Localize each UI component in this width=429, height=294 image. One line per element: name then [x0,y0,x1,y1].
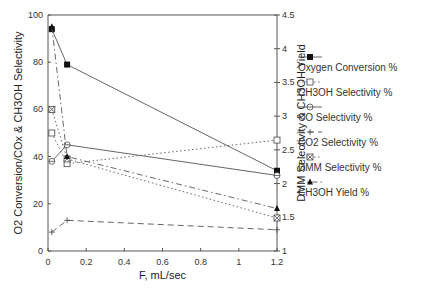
legend-item: CO2 Selectivity % [296,127,429,152]
legend-sample-icon [296,177,326,187]
legend: Oxygen Conversion %CH3OH Selectivity %CO… [296,52,429,202]
marker-square-open [49,130,55,136]
y-tick-label: 80 [33,57,43,67]
y2-tick-label: 1.5 [282,212,295,222]
x-tick-label: 1.2 [271,257,284,267]
y2-tick-label: 2.5 [282,145,295,155]
legend-item: DMM Selectivity % [296,152,429,177]
y-tick-label: 100 [28,10,43,20]
x-axis-label: F, mL/sec [139,269,187,281]
legend-sample-icon [296,102,326,112]
marker-triangle [274,205,280,211]
legend-sample-icon [296,77,326,87]
legend-item: CH3OH Yield % [296,177,429,202]
series-ch3oh-yield [49,23,280,211]
series-ch3oh-selectivity [49,130,280,167]
legend-label: CH3OH Yield % [298,187,369,198]
y-tick-label: 60 [33,104,43,114]
marker-square-filled [307,54,313,60]
series-line [52,109,277,218]
legend-item: CO Selectivity % [296,102,429,127]
series-line [52,145,277,176]
x-tick-label: 0.4 [118,257,131,267]
axes: 00.20.40.60.811.202040608010011.522.533.… [12,10,307,281]
x-tick-label: 0.8 [194,257,207,267]
legend-label: DMM Selectivity % [298,162,381,173]
y2-tick-label: 3 [282,111,287,121]
y-tick-label: 40 [33,152,43,162]
legend-sample-icon [296,52,326,62]
series-dmm-selectivity [49,106,280,221]
series-line [52,29,277,171]
marker-triangle [307,179,313,185]
y-tick-label: 0 [38,246,43,256]
series-line [52,220,277,232]
legend-label: CH3OH Selectivity % [298,87,392,98]
y-tick-label: 20 [33,199,43,209]
marker-square-filled [64,62,70,68]
series-co-selectivity [49,142,280,179]
series-co2-selectivity [49,217,280,235]
series [49,23,280,235]
x-tick-label: 0 [45,257,50,267]
legend-label: Oxygen Conversion % [298,62,398,73]
y2-tick-label: 3.5 [282,77,295,87]
series-oxygen-conversion [49,26,280,174]
legend-label: CO Selectivity % [298,112,372,123]
y2-tick-label: 2 [282,179,287,189]
series-line [52,27,277,209]
y2-tick-label: 4.5 [282,10,295,20]
legend-item: Oxygen Conversion % [296,52,429,77]
x-tick-label: 0.2 [80,257,93,267]
y2-tick-label: 4 [282,44,287,54]
legend-sample-icon [296,127,326,137]
legend-label: CO2 Selectivity % [298,137,378,148]
legend-item: CH3OH Selectivity % [296,77,429,102]
marker-square-open [307,79,313,85]
legend-sample-icon [296,152,326,162]
y-axis-label: O2 Conversion/COx & CH3OH Selectivity [12,31,24,234]
marker-square-open [274,137,280,143]
x-tick-label: 0.6 [156,257,169,267]
x-tick-label: 1 [236,257,241,267]
y2-tick-label: 1 [282,246,287,256]
